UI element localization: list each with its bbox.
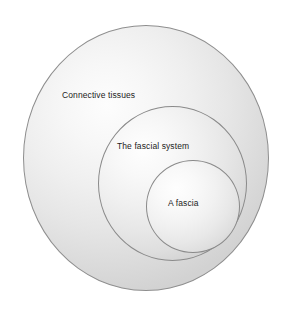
diagram-canvas: Connective tissues The fascial system A … [0,0,291,317]
label-a-fascia: A fascia [168,198,199,209]
circle-connective-tissues [23,25,269,291]
circle-fascial-system [98,106,247,261]
label-fascial-system: The fascial system [117,141,189,152]
label-connective-tissues: Connective tissues [62,90,135,101]
